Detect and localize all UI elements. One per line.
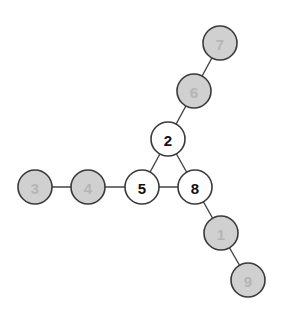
node-label: 9 — [244, 273, 252, 290]
node-8: 8 — [178, 170, 212, 204]
node-label: 2 — [164, 132, 172, 149]
node-label: 3 — [31, 180, 39, 197]
node-label: 8 — [191, 180, 199, 197]
node-label: 6 — [190, 84, 198, 101]
node-9: 9 — [231, 263, 265, 297]
node-label: 1 — [217, 226, 225, 243]
nodes-layer: 762584319 — [18, 26, 265, 297]
graph-diagram: 762584319 — [0, 0, 283, 319]
node-7: 7 — [203, 26, 237, 60]
node-4: 4 — [71, 170, 105, 204]
node-label: 5 — [138, 180, 146, 197]
node-2: 2 — [151, 122, 185, 156]
node-label: 4 — [84, 180, 93, 197]
node-1: 1 — [204, 216, 238, 250]
node-3: 3 — [18, 170, 52, 204]
node-6: 6 — [177, 74, 211, 108]
node-label: 7 — [216, 36, 224, 53]
node-5: 5 — [125, 170, 159, 204]
